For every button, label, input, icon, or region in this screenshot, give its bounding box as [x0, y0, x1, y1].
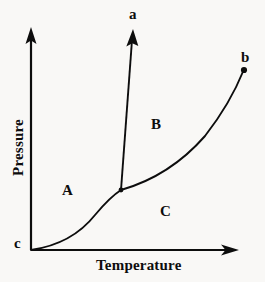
x-axis-title: Temperature: [96, 258, 182, 273]
phase-diagram-figure: A B C a b c Temperature Pressure: [0, 0, 265, 282]
region-label-b: B: [151, 117, 161, 132]
critical-point-marker: [241, 67, 247, 73]
y-axis: [26, 27, 37, 250]
y-axis-title: Pressure: [11, 108, 26, 188]
region-label-c: C: [160, 204, 171, 219]
fusion-curve: [121, 40, 132, 190]
region-label-a: A: [62, 183, 73, 198]
point-label-c: c: [14, 236, 21, 251]
fusion-curve-group: [121, 29, 138, 190]
x-axis: [31, 245, 239, 256]
triple-point-marker: [119, 188, 124, 193]
point-label-a: a: [129, 7, 137, 22]
sublimation-curve: [31, 190, 121, 250]
phase-diagram-canvas: [0, 0, 265, 282]
point-label-b: b: [241, 50, 249, 65]
vaporization-curve: [121, 71, 244, 191]
